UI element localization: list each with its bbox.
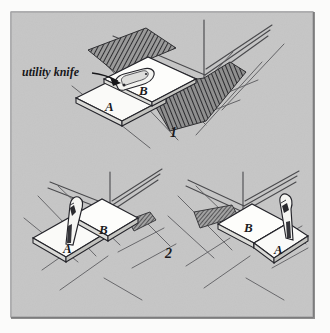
tile-letter-B-1: B [138, 83, 148, 98]
tile-letter-A-1: A [104, 99, 114, 114]
tile-letter-A-2b: A [273, 242, 283, 257]
tile-letter-B-2b: B [243, 220, 253, 235]
paper-grain [11, 12, 313, 317]
tile-letter-A-2a: A [62, 241, 72, 256]
step-number-1: 1 [170, 125, 177, 140]
illustration-figure: utility knife A B 1 [0, 0, 330, 333]
tile-letter-B-2a: B [98, 222, 108, 237]
step-number-2: 2 [164, 246, 172, 261]
utility-knife-label: utility knife [22, 65, 80, 79]
tile-scribing-diagram: utility knife A B 1 [0, 0, 330, 333]
